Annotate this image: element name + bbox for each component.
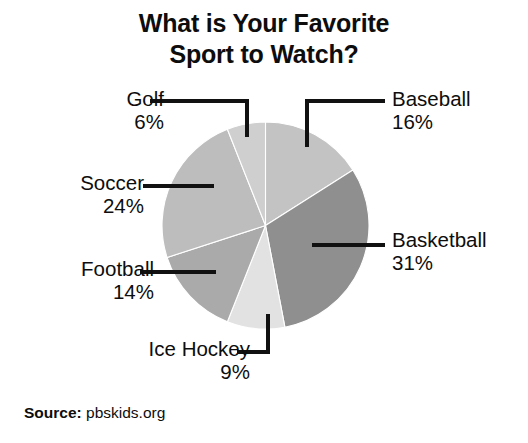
pie-label-basketball: Basketball 31% (392, 229, 487, 275)
pie-label-golf: Golf 6% (28, 88, 164, 134)
pie-label-football-name: Football (4, 258, 154, 281)
pie-label-basketball-name: Basketball (392, 229, 487, 252)
pie-label-ice-hockey-name: Ice Hockey (60, 338, 250, 361)
source-note: Source: pbskids.org (24, 404, 165, 422)
chart-canvas: What is Your Favorite Sport to Watch? Go… (0, 0, 528, 443)
pie-label-ice-hockey: Ice Hockey 9% (60, 338, 250, 384)
pie-label-golf-name: Golf (28, 88, 164, 111)
pie-label-soccer-name: Soccer (8, 172, 144, 195)
pie-slice-group (162, 122, 369, 329)
pie-label-baseball: Baseball 16% (392, 88, 471, 134)
pie-label-football: Football 14% (4, 258, 154, 304)
pie-label-ice-hockey-value: 9% (60, 361, 250, 384)
pie-label-soccer: Soccer 24% (8, 172, 144, 218)
source-label: Source: (24, 404, 82, 421)
pie-label-baseball-value: 16% (392, 111, 471, 134)
pie-label-basketball-value: 31% (392, 252, 487, 275)
pie-label-football-value: 14% (4, 281, 154, 304)
source-value: pbskids.org (86, 404, 165, 421)
pie-label-baseball-name: Baseball (392, 88, 471, 111)
pie-label-golf-value: 6% (28, 111, 164, 134)
pie-label-soccer-value: 24% (8, 195, 144, 218)
